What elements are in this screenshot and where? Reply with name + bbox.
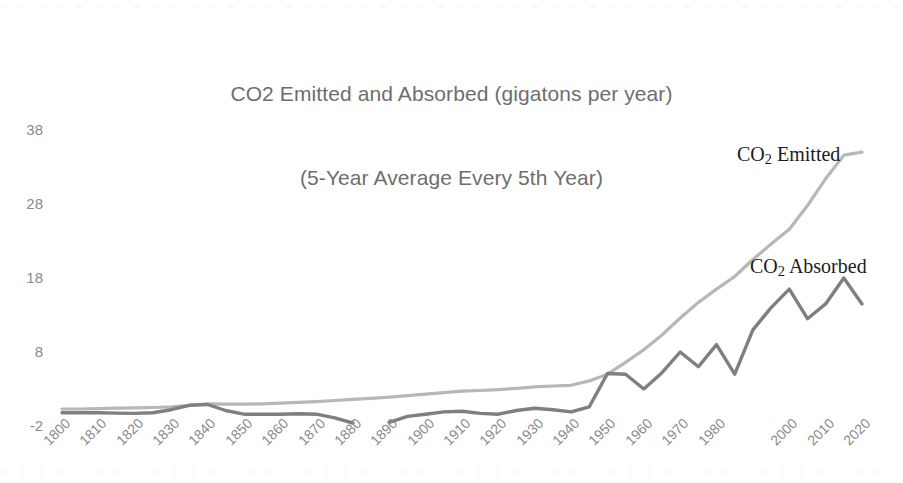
series-label-co2-absorbed: CO2 Absorbed xyxy=(750,255,867,280)
series-label-co2-emitted: CO2 Emitted xyxy=(737,143,840,168)
y-axis-tick-neg2: -2 xyxy=(3,417,43,434)
series-line-co2-absorbed xyxy=(389,278,862,422)
y-axis-tick-28: 28 xyxy=(3,195,43,212)
plot-area xyxy=(0,0,903,483)
y-axis-tick-38: 38 xyxy=(3,121,43,138)
y-axis-tick-18: 18 xyxy=(3,269,43,286)
chart-root: CO2 Emitted and Absorbed (gigatons per y… xyxy=(0,0,903,483)
series-line-co2-emitted xyxy=(62,152,862,409)
y-axis-tick-8: 8 xyxy=(3,343,43,360)
